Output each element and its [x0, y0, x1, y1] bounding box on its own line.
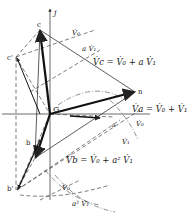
label-v0-bottom: V̇₀	[62, 183, 70, 192]
phasor-diagram: j G c c' n b b' a V̇₀ a V̇₁ V̇c = V̇₀ + …	[0, 0, 193, 218]
point-c-prime-label: c'	[7, 54, 13, 62]
point-a-label: a	[112, 121, 116, 128]
point-c-label: c	[37, 21, 41, 29]
phasor-vc-prime	[17, 58, 40, 114]
label-a2v1-bottom: a² V̇₁	[72, 199, 89, 208]
phasor-vb	[36, 114, 50, 157]
construction-lines	[16, 30, 140, 200]
label-vb-equation: V̇b = V̇₀ + a² V̇₁	[66, 154, 133, 165]
label-vc-equation: V̇c = V̇₀ + a V̇₁	[93, 56, 156, 67]
point-b-prime-label: b'	[7, 185, 13, 193]
label-v0-top: V̇₀	[72, 28, 80, 37]
origin-label: G	[53, 105, 59, 114]
phasors	[17, 31, 134, 189]
label-va-equation: V̇a = V̇₀ + V̇₁	[132, 103, 187, 114]
label-v0-right: V̇₀	[136, 119, 144, 128]
label-v1-right: V̇₁	[122, 137, 130, 146]
axes	[2, 9, 150, 200]
phasor-va	[50, 92, 134, 114]
phasor-vc	[40, 31, 50, 114]
j-axis-label: j	[52, 8, 57, 17]
point-b-label: b	[26, 139, 31, 147]
label-av1-top: a V̇₁	[82, 44, 96, 53]
point-n-label: n	[138, 88, 143, 96]
